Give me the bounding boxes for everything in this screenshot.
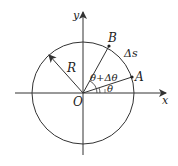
angle-theta-label: θ: [107, 83, 113, 94]
point-a-label: A: [134, 70, 144, 84]
y-axis-label: y: [72, 9, 80, 22]
radius-label: R: [66, 61, 76, 75]
arc-label: Δs: [123, 47, 138, 60]
angle-theta-plus-label: θ+Δθ: [90, 72, 118, 83]
origin-label: O: [73, 95, 83, 109]
point-a: [130, 75, 133, 78]
x-axis-label: x: [162, 94, 169, 107]
angle-theta-arc: [99, 88, 100, 93]
point-b-label: B: [107, 31, 117, 45]
radius-arrow: [49, 55, 83, 93]
circle-diagram: y x O R B A Δs θ+Δθ θ: [0, 0, 178, 166]
